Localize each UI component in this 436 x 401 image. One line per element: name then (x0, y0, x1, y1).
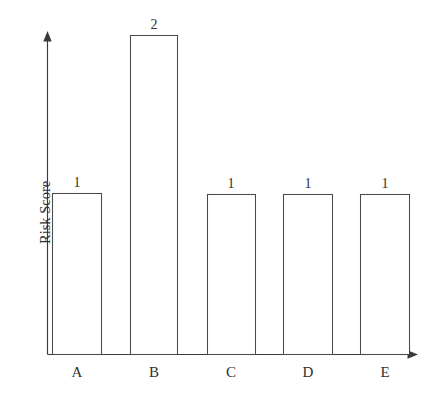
y-axis-arrowhead (43, 31, 51, 42)
bar-d (284, 195, 333, 355)
bar-e (361, 195, 410, 355)
bar-value-label-e: 1 (355, 177, 415, 191)
bar-value-label-a: 1 (47, 176, 107, 190)
category-label-c: C (201, 365, 261, 380)
category-label-d: D (278, 365, 338, 380)
bar-value-label-b: 2 (124, 18, 184, 32)
bar-b (131, 36, 178, 355)
category-label-a: A (47, 365, 107, 380)
bar-a (53, 194, 102, 355)
category-label-e: E (355, 365, 415, 380)
category-label-b: B (124, 365, 184, 380)
bar-c (208, 195, 256, 355)
bar-chart: Risk Score 1 2 1 1 1 A B C D E (0, 0, 436, 401)
bar-value-label-c: 1 (201, 177, 261, 191)
y-axis-label: Risk Score (37, 181, 54, 244)
bar-value-label-d: 1 (278, 177, 338, 191)
chart-plot-area (0, 0, 436, 401)
